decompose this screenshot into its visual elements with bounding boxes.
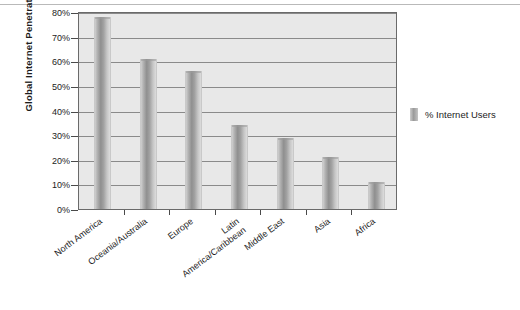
bar-top-cap	[232, 125, 247, 127]
x-axis-label-line: Middle East	[243, 216, 287, 253]
y-tick-label: 60%	[30, 57, 70, 67]
x-tick-mark	[306, 210, 307, 215]
x-tick-mark	[169, 210, 170, 215]
legend-swatch-icon	[410, 108, 418, 121]
y-tick-label: 0%	[30, 205, 70, 215]
x-axis-label: Asia	[312, 216, 333, 235]
y-tick-label: 80%	[30, 8, 70, 18]
legend: % Internet Users	[410, 108, 496, 121]
y-tick-mark	[71, 161, 78, 162]
y-tick-label: 30%	[30, 131, 70, 141]
x-tick-mark	[260, 210, 261, 215]
x-axis-label: Europe	[166, 216, 196, 242]
y-tick-mark	[71, 38, 78, 39]
bar	[231, 125, 248, 209]
x-tick-mark	[124, 210, 125, 215]
gridline	[79, 62, 396, 63]
bar	[185, 71, 202, 209]
bar	[322, 157, 339, 209]
bar-top-cap	[278, 138, 293, 140]
y-tick-label: 40%	[30, 107, 70, 117]
y-tick-mark	[71, 13, 78, 14]
plot-inner	[79, 13, 396, 209]
y-tick-mark	[71, 112, 78, 113]
gridline	[79, 13, 396, 14]
legend-label: % Internet Users	[425, 109, 496, 120]
x-axis-label: Africa	[353, 216, 378, 239]
x-axis-label-line: Africa	[353, 216, 378, 239]
bar-top-cap	[369, 182, 384, 184]
y-tick-label: 10%	[30, 180, 70, 190]
bar-top-cap	[323, 157, 338, 159]
y-tick-label: 70%	[30, 33, 70, 43]
plot-area	[78, 12, 397, 210]
gridline	[79, 87, 396, 88]
y-tick-mark	[71, 62, 78, 63]
bar-top-cap	[95, 17, 110, 19]
y-tick-mark	[71, 136, 78, 137]
bar	[140, 59, 157, 209]
x-tick-mark	[351, 210, 352, 215]
x-axis-label: Middle East	[243, 216, 287, 253]
bar	[277, 138, 294, 209]
gridline	[79, 112, 396, 113]
y-tick-label: 50%	[30, 82, 70, 92]
bar-top-cap	[141, 59, 156, 61]
x-axis-label-line: Asia	[312, 216, 333, 235]
x-tick-mark	[215, 210, 216, 215]
bar-top-cap	[186, 71, 201, 73]
x-axis-label-line: Europe	[166, 216, 196, 242]
y-tick-mark	[71, 185, 78, 186]
bar-chart: Global Internet Penetration Rates % Inte…	[0, 0, 520, 310]
y-tick-label: 20%	[30, 156, 70, 166]
y-tick-mark	[71, 87, 78, 88]
y-tick-mark	[71, 210, 78, 211]
bar	[94, 17, 111, 209]
gridline	[79, 38, 396, 39]
bar	[368, 182, 385, 209]
